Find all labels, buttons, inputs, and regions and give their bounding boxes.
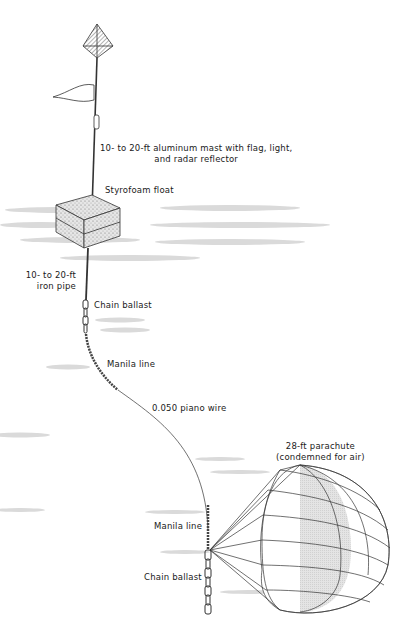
parachute-label: 28-ft parachute (condemned for air) <box>276 441 365 463</box>
upper-chain-label: Chain ballast <box>94 300 152 311</box>
lower-chain-ballast <box>205 550 211 614</box>
upper-manila-label: Manila line <box>107 359 155 370</box>
mast-label: 10- to 20-ft aluminum mast with flag, li… <box>100 143 292 165</box>
diagram-artwork <box>0 0 400 629</box>
lower-manila-label: Manila line <box>154 521 202 532</box>
pipe-label: 10- to 20-ft iron pipe <box>6 270 76 292</box>
piano-wire-label: 0.050 piano wire <box>152 403 226 414</box>
float-label: Styrofoam float <box>105 185 174 196</box>
lower-chain-label: Chain ballast <box>144 572 202 583</box>
flag <box>53 84 94 101</box>
aluminum-mast <box>92 58 97 210</box>
radar-reflector <box>83 24 113 58</box>
upper-chain-ballast <box>83 300 88 333</box>
mast-light <box>94 115 99 129</box>
